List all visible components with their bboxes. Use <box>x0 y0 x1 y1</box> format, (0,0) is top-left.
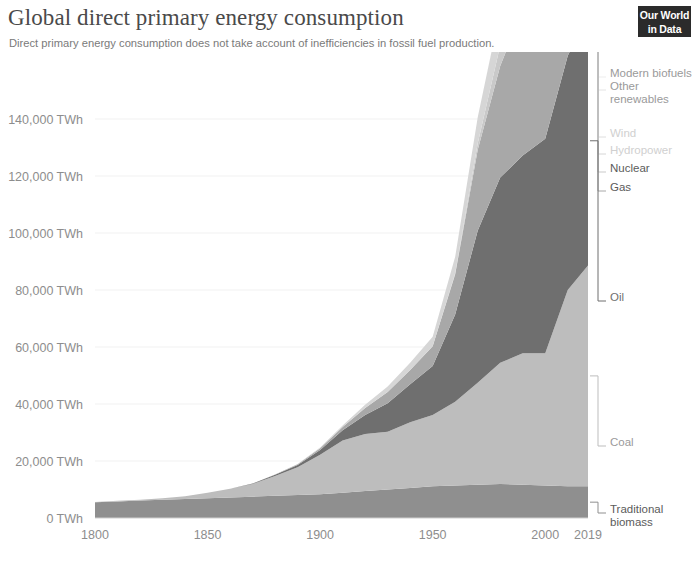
legend-label-line: Hydropower <box>610 144 672 156</box>
stacked-area-chart[interactable]: 0 TWh20,000 TWh40,000 TWh60,000 TWh80,00… <box>0 52 699 569</box>
legend-label-other-renewables[interactable]: Otherrenewables <box>610 80 669 105</box>
x-axis-tick-label: 1800 <box>81 528 109 542</box>
legend-label-line: Nuclear <box>610 162 650 174</box>
y-axis-tick-label: 60,000 TWh <box>15 341 83 355</box>
legend-label-hydropower[interactable]: Hydropower <box>610 144 672 156</box>
y-axis-tick-label: 0 TWh <box>46 512 83 526</box>
legend-label-line: Other <box>610 80 639 92</box>
area-series-group[interactable] <box>95 52 588 518</box>
chart-subtitle: Direct primary energy consumption does n… <box>9 36 691 51</box>
legend-label-line: Wind <box>610 127 636 139</box>
legend-leader-line <box>590 141 606 301</box>
owid-logo[interactable]: Our World in Data <box>638 6 691 37</box>
legend-label-line: Traditional <box>610 503 663 515</box>
x-axis-tick-label: 2019 <box>574 528 602 542</box>
legend-label-line: renewables <box>610 93 669 105</box>
chart-plot-area[interactable]: 0 TWh20,000 TWh40,000 TWh60,000 TWh80,00… <box>0 52 699 569</box>
legend-leader-line <box>590 502 606 513</box>
owid-logo-line2: in Data <box>638 22 691 36</box>
chart-legend[interactable]: Modern biofuelsOtherrenewablesWindHydrop… <box>590 52 692 528</box>
legend-leader-line <box>590 376 606 446</box>
x-axis-tick-labels: 180018501900195020002019 <box>81 528 602 542</box>
y-axis-tick-label: 20,000 TWh <box>15 455 83 469</box>
x-axis-tick-label: 1850 <box>194 528 222 542</box>
x-axis-tick-label: 1950 <box>419 528 447 542</box>
chart-header: Global direct primary energy consumption… <box>8 4 691 51</box>
legend-label-line: Oil <box>610 291 624 303</box>
legend-label-line: Coal <box>610 436 634 448</box>
legend-label-nuclear[interactable]: Nuclear <box>610 162 650 174</box>
y-axis-tick-label: 80,000 TWh <box>15 284 83 298</box>
legend-label-line: Gas <box>610 181 631 193</box>
legend-label-oil[interactable]: Oil <box>610 291 624 303</box>
page-title: Global direct primary energy consumption <box>8 4 691 32</box>
x-axis-tick-label: 2000 <box>531 528 559 542</box>
y-axis-tick-label: 140,000 TWh <box>8 113 83 127</box>
y-axis-tick-label: 100,000 TWh <box>8 227 83 241</box>
owid-logo-line1: Our World <box>638 8 691 22</box>
chart-page: Global direct primary energy consumption… <box>0 0 699 569</box>
x-axis-tick-label: 1900 <box>306 528 334 542</box>
legend-label-coal[interactable]: Coal <box>610 436 634 448</box>
y-axis-tick-label: 120,000 TWh <box>8 170 83 184</box>
legend-label-line: Modern biofuels <box>610 67 692 79</box>
legend-label-traditional-biomass[interactable]: Traditionalbiomass <box>610 503 663 528</box>
legend-label-modern-biofuels[interactable]: Modern biofuels <box>610 67 692 79</box>
legend-label-line: biomass <box>610 516 653 528</box>
y-axis-tick-label: 40,000 TWh <box>15 398 83 412</box>
legend-label-gas[interactable]: Gas <box>610 181 631 193</box>
legend-label-wind[interactable]: Wind <box>610 127 636 139</box>
y-axis-tick-labels: 0 TWh20,000 TWh40,000 TWh60,000 TWh80,00… <box>8 113 83 526</box>
